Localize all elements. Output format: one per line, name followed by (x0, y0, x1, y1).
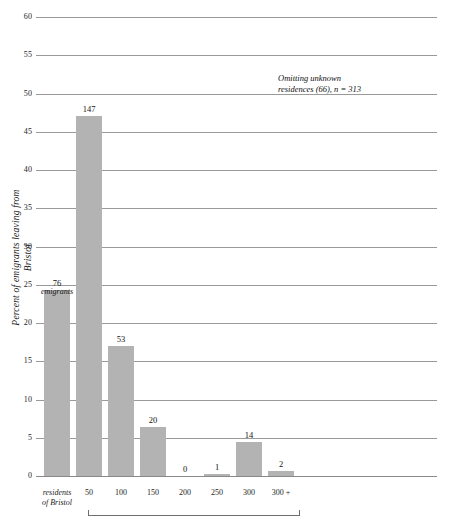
bar (76, 116, 102, 476)
y-axis-tick-label: 45 (10, 127, 32, 136)
y-axis-tick-label: 35 (10, 203, 32, 212)
bar (236, 442, 262, 476)
annotation-line-2: residences (66), n = 313 (278, 84, 428, 95)
y-axis-tick-label: 10 (10, 395, 32, 404)
y-axis-tick-label: 55 (10, 50, 32, 59)
gridline (36, 55, 437, 56)
bar-value-label: 2 (261, 459, 301, 469)
x-axis-tick-label: 300 + (259, 488, 303, 498)
bar (140, 427, 166, 476)
x-axis-tick-line: 300 + (259, 488, 303, 498)
bar-value-label: 147 (69, 104, 109, 114)
x-axis-tick-line: of Bristol (35, 498, 79, 508)
axis-baseline (36, 476, 437, 477)
y-axis-tick-label: 20 (10, 318, 32, 327)
y-axis-tick-label: 0 (10, 471, 32, 480)
y-axis-tick-label: 25 (10, 280, 32, 289)
bar (44, 290, 70, 476)
bar (108, 346, 134, 476)
bar (204, 474, 230, 476)
gridline (36, 17, 437, 18)
y-axis-tick-label: 30 (10, 242, 32, 251)
bar-value-label: 14 (229, 430, 269, 440)
bar-value-label: 53 (101, 334, 141, 344)
annotation-line-1: Omitting unknown (278, 73, 428, 84)
y-axis-tick-label: 60 (10, 12, 32, 21)
y-axis-tick-label: 40 (10, 165, 32, 174)
bar (268, 471, 294, 476)
chart-annotation: Omitting unknown residences (66), n = 31… (278, 73, 428, 95)
bar-value-label: 20 (133, 415, 173, 425)
category-group-bracket (88, 510, 300, 516)
bar-sublabel-emigrants: emigrants (36, 287, 78, 296)
bar-value-label: 1 (197, 462, 237, 472)
y-axis-tick-label: 50 (10, 89, 32, 98)
bar-chart: Percent of emigrants leaving from Bristo… (0, 0, 449, 521)
y-axis-tick-label: 5 (10, 433, 32, 442)
y-axis-tick-label: 15 (10, 356, 32, 365)
